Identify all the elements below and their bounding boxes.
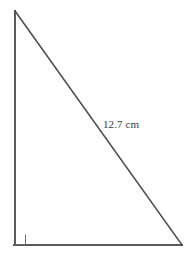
hypotenuse-length-label: 12.7 cm <box>103 118 139 131</box>
figure-background <box>0 0 189 256</box>
geometry-figure: 12.7 cm <box>0 0 189 256</box>
right-triangle-svg <box>0 0 189 256</box>
